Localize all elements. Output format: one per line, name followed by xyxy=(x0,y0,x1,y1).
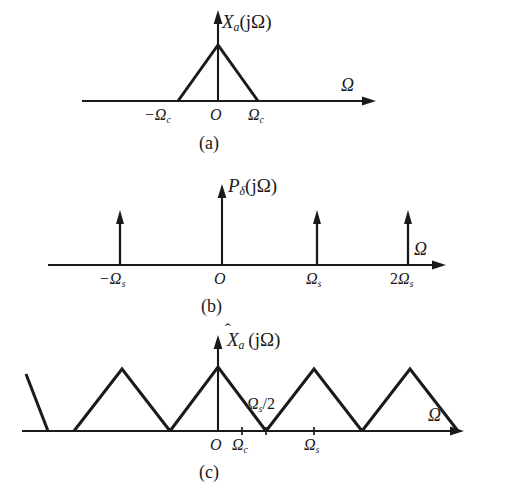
panel-b-tick-omega-s: Ωs xyxy=(306,271,321,289)
panel-b-signal-label: Pδ(jΩ) xyxy=(228,176,277,198)
panel-a-signal-label: Xa(jΩ) xyxy=(222,12,272,34)
panel-b-x-axis-arrowhead xyxy=(432,261,446,270)
panel-b-caption: (b) xyxy=(201,297,222,315)
panel-c-replica-plus-two xyxy=(362,369,458,431)
panel-b-axis-label: Ω xyxy=(414,240,427,258)
panel-a-tick-omega-c: Ωc xyxy=(248,107,264,125)
panel-c-signal-label: ̂Xa (jΩ) xyxy=(227,330,280,352)
panel-c-axis-label: Ω xyxy=(428,406,441,424)
panel-c-replica-plus-one xyxy=(266,369,362,431)
panel-c-tick-omega-s: Ωs xyxy=(304,437,319,455)
panel-c-replica-clipped-left xyxy=(26,374,48,431)
panel-c-annotation-omega-s-over-two: Ωs/2 xyxy=(247,396,275,414)
panel-b-tick-origin: O xyxy=(214,271,226,287)
panel-a-axis-label: Ω xyxy=(341,76,354,94)
panel-b-impulse-train xyxy=(116,210,412,265)
impulse-omega-s-head xyxy=(313,210,321,224)
panel-c-caption: (c) xyxy=(199,463,219,481)
panel-c-y-axis-arrowhead xyxy=(214,335,223,349)
panel-c-tick-omega-c: Ωc xyxy=(232,437,248,455)
panel-a-tick-minus-omega-c: −Ωc xyxy=(144,107,171,125)
panel-a-tick-origin: O xyxy=(210,107,222,123)
panel-b-y-axis-arrowhead xyxy=(218,184,227,198)
panel-b-tick-two-omega-s: 2Ωs xyxy=(390,271,413,289)
panel-a-caption: (a) xyxy=(199,134,219,152)
panel-c-replica-minus-one xyxy=(74,369,170,431)
impulse-two-omega-s-head xyxy=(404,210,412,224)
panel-c-tick-origin: O xyxy=(210,437,222,453)
sampling-frequency-figure: Xa(jΩ) Ω −Ωc O Ωc (a) Pδ(jΩ) Ω −Ωs O Ωs … xyxy=(0,0,506,498)
panel-b-tick-minus-omega-s: −Ωs xyxy=(99,271,125,289)
impulse-minus-omega-s-head xyxy=(116,210,124,224)
panel-a-x-axis-arrowhead xyxy=(362,97,376,106)
